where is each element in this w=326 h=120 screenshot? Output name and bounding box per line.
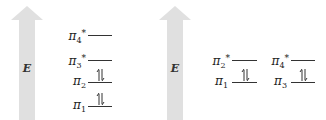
orbital-label-pi4-star: π4* [257,52,289,72]
orbital-label-pi3-star: π3* [56,52,86,72]
electron-pair-icon [96,92,105,106]
orbital-level-pi1 [88,106,112,107]
orbital-label-pi3: π3 [257,75,287,92]
orbital-label-pi2: π2 [56,75,86,92]
electron-pair-icon [96,68,105,82]
orbital-label-pi2-star: π2* [198,52,230,72]
electron-pair-icon [299,68,308,82]
energy-axis-label: E [23,62,31,75]
orbital-level-pi1 [232,82,257,83]
orbital-label-pi1: π1 [198,75,228,92]
orbital-level-pi2 [88,82,112,83]
orbital-level-pi4-star [88,35,112,36]
orbital-level-pi2-star [232,60,257,61]
orbital-level-pi3-star [88,60,112,61]
energy-axis-label: E [171,62,179,75]
orbital-level-pi4-star [291,60,315,61]
electron-pair-icon [241,68,250,82]
orbital-label-pi1: π1 [56,99,86,116]
orbital-level-pi3 [291,82,315,83]
orbital-label-pi4-star: π4* [56,27,86,47]
